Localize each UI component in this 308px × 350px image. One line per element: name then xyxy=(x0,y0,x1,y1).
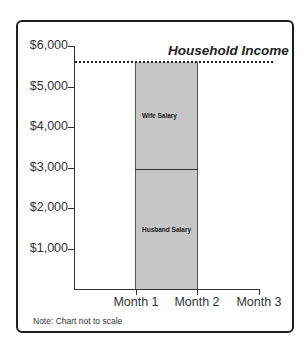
household-income-line xyxy=(75,61,273,63)
x-axis xyxy=(74,289,260,290)
y-tick-label-4000: $4,000 xyxy=(8,119,68,133)
y-tick-label-5000: $5,000 xyxy=(8,79,68,93)
chart-title: Household Income xyxy=(168,43,289,58)
husband-salary-label: Husband Salary xyxy=(142,226,191,233)
y-tick-label-6000: $6,000 xyxy=(8,38,68,52)
y-tick-label-3000: $3,000 xyxy=(8,160,68,174)
x-tick-label-month-1: Month 1 xyxy=(106,295,166,309)
scale-note: Note: Chart not to scale xyxy=(33,316,122,326)
segment-divider xyxy=(135,169,198,170)
y-tick-label-1000: $1,000 xyxy=(8,241,68,255)
y-axis xyxy=(74,46,75,290)
y-tick-label-2000: $2,000 xyxy=(8,200,68,214)
x-tick-label-month-2: Month 2 xyxy=(167,295,227,309)
wife-salary-label: Wife Salary xyxy=(142,112,177,119)
x-tick-label-month-3: Month 3 xyxy=(229,295,289,309)
